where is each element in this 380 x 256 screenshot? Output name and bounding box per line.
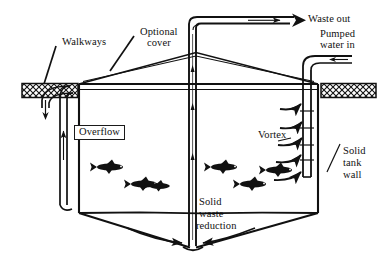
label-optional-cover-line2: cover [147, 37, 171, 49]
fish-4 [233, 177, 266, 191]
label-solid-tank-wall-line1: Solid [343, 145, 366, 157]
vortex-arrow-2 [280, 122, 302, 128]
fish-group [90, 160, 292, 192]
overflow-intake-hook [60, 205, 72, 210]
inlet-elbow-outer [303, 56, 352, 66]
standpipe-flow-arrow-lower [191, 153, 195, 160]
cone-apex [183, 247, 203, 250]
cover-outer-peak [79, 53, 318, 85]
overflow-pipe-outer-wall [67, 93, 73, 205]
right-walkway [321, 84, 376, 98]
waste-out-arrowhead [292, 14, 306, 28]
label-solid-tank-wall-line2: tank [343, 157, 361, 169]
label-optional-cover-line1: Optional [140, 26, 178, 38]
standpipe-flow-arrow-mid [191, 103, 195, 110]
leader-solid-tank-wall [327, 144, 340, 172]
label-waste-out: Waste out [308, 13, 350, 25]
fish-1 [90, 160, 123, 174]
label-vortex: Vortex [258, 129, 286, 141]
diagram-canvas: Walkways Optional cover Waste out Pumped… [0, 0, 380, 256]
vortex-arrow-1 [280, 104, 301, 109]
vortex-arrow-4 [276, 155, 301, 162]
label-solid-waste-line1: Solid [199, 196, 222, 208]
leader-walkways [44, 46, 56, 84]
label-overflow: Overflow [74, 125, 125, 140]
inlet-elbow-inner [311, 63, 352, 70]
label-solid-waste-line3: reduction [196, 220, 237, 232]
label-walkways: Walkways [62, 36, 106, 48]
label-solid-tank-wall-line3: wall [343, 169, 361, 181]
right-walkway-block [321, 84, 376, 98]
label-solid-waste-line2: waste [199, 208, 223, 220]
optional-cover-group [79, 53, 318, 85]
overflow-pipe-group [42, 86, 73, 210]
label-pumped-line1: Pumped [320, 28, 355, 40]
overflow-pipe-inner-wall [60, 86, 70, 205]
fish-2 [124, 177, 157, 191]
leader-optional-cover [110, 36, 134, 71]
fish-3 [204, 160, 237, 174]
fish-5 [259, 163, 292, 177]
label-pumped-line2: water in [320, 39, 355, 51]
standpipe-flow-arrow-upper [191, 65, 195, 72]
